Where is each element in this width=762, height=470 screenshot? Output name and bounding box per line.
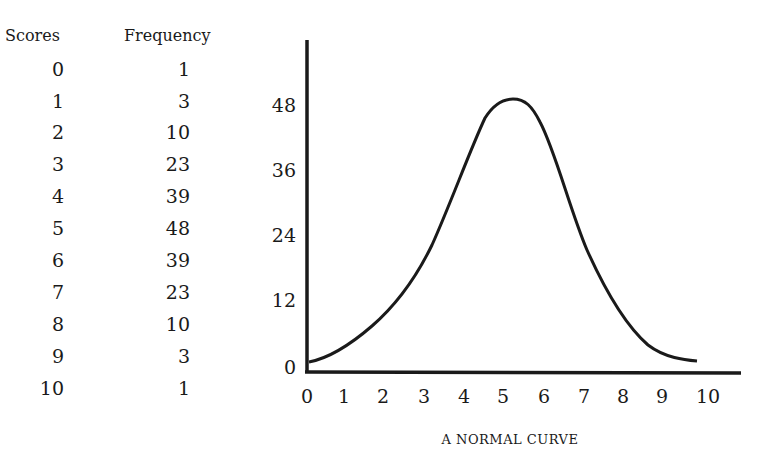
x-axis-line <box>305 372 741 373</box>
x-tick-label: 10 <box>693 385 723 407</box>
x-tick-label: 1 <box>329 385 359 407</box>
x-tick-label: 7 <box>569 385 599 407</box>
x-tick-label: 5 <box>488 385 518 407</box>
x-tick-label: 3 <box>409 385 439 407</box>
normal-curve <box>309 99 697 362</box>
x-tick-label: 8 <box>608 385 638 407</box>
x-tick-label: 2 <box>368 385 398 407</box>
x-tick-label: 6 <box>529 385 559 407</box>
x-tick-label: 0 <box>292 385 322 407</box>
x-tick-label: 4 <box>449 385 479 407</box>
x-tick-label: 9 <box>647 385 677 407</box>
chart-caption: A NORMAL CURVE <box>360 432 660 447</box>
